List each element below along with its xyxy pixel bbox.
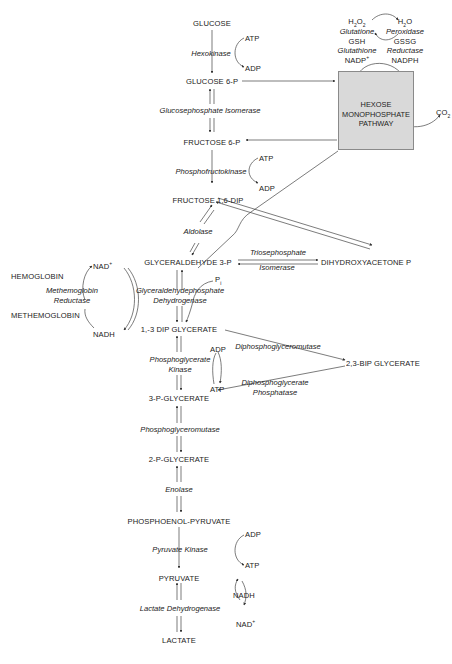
enzyme-hexokinase: Hexokinase (191, 49, 231, 58)
cofactor-pgk-atp: ATP (210, 385, 225, 394)
metabolite-dihydroxyacetone-phosphate: DIHYDROXYACETONE P (321, 258, 411, 267)
enzyme-lactate-dehydrogenase: Lactate Dehydrogenase (140, 604, 221, 613)
enzyme-enolase: Enolase (165, 485, 192, 494)
metabolite-2-3-bisphosphoglycerate: 2,3-BIP GLYCERATE (346, 359, 420, 368)
cofactor-hexokinase-atp: ATP (245, 34, 260, 43)
cofactor-water: H2O (398, 17, 413, 26)
cofactor-nadph: NADPH (391, 56, 418, 65)
metabolite-3-phosphoglycerate: 3-P-GLYCERATE (149, 394, 210, 403)
enzyme-phosphoglyceromutase: Phosphoglyceromutase (140, 425, 219, 434)
cofactor-ldh-nadh: NADH (233, 591, 255, 600)
enzyme-glutathione-reductase-line1: Glutathione (338, 46, 377, 55)
metabolite-glyceraldehyde-3-phosphate: GLYCERALDEHYDE 3-P (144, 258, 231, 267)
cofactor-pgk-adp: ADP (210, 345, 226, 354)
enzyme-triosephosphate-isomerase-line1: Triosephosphate (250, 248, 306, 257)
metabolite-lactate: LACTATE (162, 636, 196, 645)
metabolite-methemoglobin: METHEMOGLOBIN (11, 311, 80, 320)
metabolite-glucose: GLUCOSE (193, 19, 231, 28)
metabolite-2-phosphoglycerate: 2-P-GLYCERATE (149, 455, 210, 464)
cofactor-ldh-nad: NAD+ (236, 620, 255, 629)
hmp-label-line3: PATHWAY (338, 119, 414, 129)
enzyme-gapdh-line2: Dehydrogenase (153, 296, 207, 305)
metabolite-glucose-6-phosphate: GLUCOSE 6-P (186, 77, 238, 86)
hmp-label-line1: HEXOSE (338, 100, 414, 110)
cofactor-pk-atp: ATP (245, 561, 260, 570)
metabolite-hemoglobin: HEMOGLOBIN (11, 272, 63, 281)
enzyme-glucosephosphate-isomerase: Glucosephosphate Isomerase (160, 106, 261, 115)
enzyme-diphosphoglycerate-phosphatase-line2: Phosphatase (253, 388, 297, 397)
metabolite-1-3-diphosphoglycerate: 1,-3 DIP GLYCERATE (141, 325, 218, 334)
enzyme-diphosphoglycerate-phosphatase-line1: Diphosphoglycerate (241, 378, 308, 387)
hexose-monophosphate-pathway-label: HEXOSE MONOPHOSPHATE PATHWAY (338, 100, 414, 129)
enzyme-gapdh-line1: Glyceraldehydephosphate (136, 286, 224, 295)
cofactor-gssg: GSSG (394, 37, 416, 46)
enzyme-glutathione-peroxidase-line1: Glutatione (340, 27, 375, 36)
enzyme-methemoglobin-reductase-line1: Methemoglobin (46, 286, 98, 295)
enzyme-phosphoglycerate-kinase-line2: Kinase (168, 365, 191, 374)
enzyme-phosphoglycerate-kinase-line1: Phosphoglycerate (150, 355, 211, 364)
cofactor-nadp: NADP+ (345, 56, 370, 65)
cofactor-carbon-dioxide: CO2 (436, 108, 450, 117)
enzyme-glutathione-reductase-line2: Reductase (387, 46, 423, 55)
cofactor-mhr-nad: NAD+ (93, 262, 112, 271)
cofactor-pfk-atp: ATP (259, 154, 274, 163)
cofactor-hydrogen-peroxide: H2O2 (348, 17, 365, 26)
metabolite-fructose-1-6-diphosphate: FRUCTOSE 1,6-DIP (172, 196, 243, 205)
metabolite-fructose-6-phosphate: FRUCTOSE 6-P (184, 138, 241, 147)
cofactor-inorganic-phosphate: Pi (215, 275, 221, 284)
cofactor-pk-adp: ADP (245, 530, 261, 539)
enzyme-methemoglobin-reductase-line2: Reductase (54, 296, 90, 305)
enzyme-aldolase: Aldolase (183, 227, 212, 236)
metabolite-phosphoenolpyruvate: PHOSPHOENOL-PYRUVATE (128, 517, 231, 526)
enzyme-glutathione-peroxidase-line2: Peroxidase (386, 27, 424, 36)
hmp-label-line2: MONOPHOSPHATE (338, 110, 414, 120)
cofactor-gsh: GSH (349, 37, 366, 46)
enzyme-triosephosphate-isomerase-line2: Isomerase (259, 263, 294, 272)
cofactor-hexokinase-adp: ADP (245, 64, 261, 73)
enzyme-pyruvate-kinase: Pyruvate Kinase (152, 545, 207, 554)
cofactor-pfk-adp: ADP (259, 184, 275, 193)
metabolite-pyruvate: PYRUVATE (159, 574, 200, 583)
enzyme-diphosphoglyceromutase: Diphosphoglyceromutase (235, 342, 321, 351)
enzyme-phosphofructokinase: Phosphofructokinase (176, 167, 247, 176)
cofactor-mhr-nadh: NADH (93, 330, 115, 339)
